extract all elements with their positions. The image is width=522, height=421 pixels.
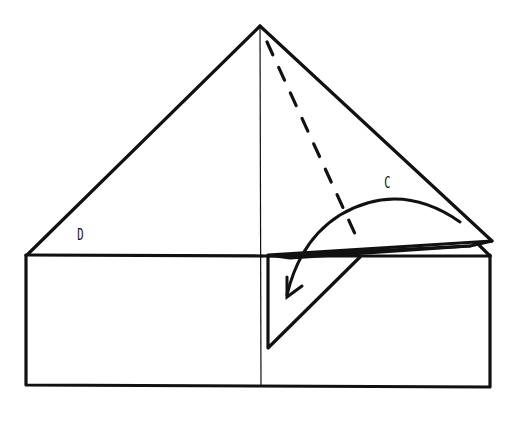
fold-diagram	[0, 0, 522, 421]
base-rectangle	[26, 255, 490, 387]
right-corner-edge	[478, 244, 490, 256]
flap-label-d: D	[77, 226, 83, 244]
base-top-edge-left	[26, 255, 262, 256]
folded-triangle	[268, 256, 360, 348]
flap-label-c: C	[384, 174, 390, 192]
right-flap-edge	[260, 26, 492, 241]
valley-fold-line	[267, 42, 356, 236]
center-crease	[260, 26, 261, 386]
left-flap-edge	[28, 26, 260, 254]
